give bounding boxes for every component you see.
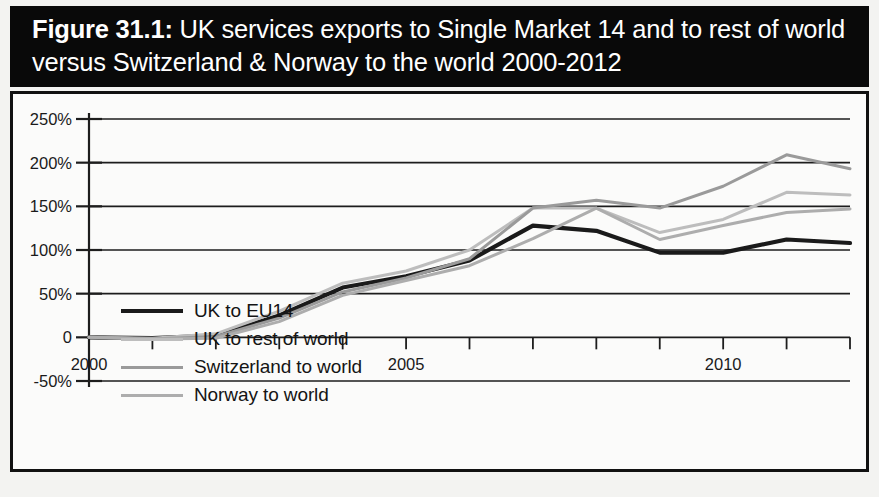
chart-frame: 250%200%150%100%50%0-50% 200020052010 UK… [10, 91, 869, 472]
y-axis-tick-label: 200% [10, 153, 72, 172]
y-axis-tick-label: 50% [10, 284, 72, 303]
line-chart-plot [13, 94, 866, 469]
page-title: Figure 31.1: UK services exports to Sing… [32, 13, 855, 79]
legend-item: UK to rest of world [121, 325, 362, 353]
figure-number-label: Figure 31.1: [32, 15, 173, 43]
y-axis-tick-label: 150% [10, 197, 72, 216]
y-axis-tick-label: -50% [10, 372, 72, 391]
legend-color-swatch [121, 338, 183, 341]
figure-title-banner: Figure 31.1: UK services exports to Sing… [10, 6, 869, 87]
figure-container: Figure 31.1: UK services exports to Sing… [0, 0, 879, 497]
legend-color-swatch [121, 309, 183, 313]
x-axis-tick-label: 2010 [688, 355, 758, 374]
y-axis-tick-label: 0 [10, 328, 72, 347]
legend-item: Switzerland to world [121, 353, 362, 381]
legend-item-label: UK to EU14 [194, 300, 293, 322]
legend-item-label: UK to rest of world [194, 328, 348, 350]
legend-item-label: Norway to world [194, 384, 329, 406]
x-axis-tick-label: 2005 [371, 355, 441, 374]
legend-color-swatch [121, 366, 183, 369]
legend-color-swatch [121, 394, 183, 397]
legend-item-label: Switzerland to world [194, 356, 362, 378]
legend-item: UK to EU14 [121, 297, 362, 325]
chart-legend: UK to EU14UK to rest of worldSwitzerland… [121, 297, 362, 409]
y-axis-tick-label: 100% [10, 241, 72, 260]
x-axis-tick-label: 2000 [54, 355, 124, 374]
y-axis-tick-label: 250% [10, 110, 72, 129]
legend-item: Norway to world [121, 381, 362, 409]
